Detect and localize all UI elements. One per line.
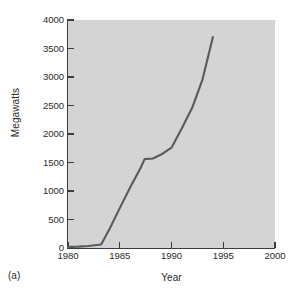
y-tick-4000 <box>68 19 74 20</box>
x-tick-label-1980: 1980 <box>46 250 90 261</box>
y-axis-title: Megawatts <box>10 63 21 163</box>
y-tick-1000 <box>68 190 74 191</box>
y-tick-label-3000: 3000 <box>26 72 64 82</box>
panel-label: (a) <box>8 270 20 281</box>
y-tick-3500 <box>68 48 74 49</box>
y-tick-3000 <box>68 76 74 77</box>
y-tick-label-4000: 4000 <box>26 15 64 25</box>
figure-panel: 05001000150020002500300035004000 1980198… <box>0 0 298 302</box>
y-tick-1500 <box>68 162 74 163</box>
x-tick-1985 <box>119 242 120 248</box>
y-tick-label-3500: 3500 <box>26 44 64 54</box>
y-tick-500 <box>68 219 74 220</box>
y-tick-label-2000: 2000 <box>26 129 64 139</box>
y-tick-label-1000: 1000 <box>26 186 64 196</box>
x-axis-title: Year <box>68 272 275 283</box>
y-tick-label-row: 4000 <box>0 15 64 25</box>
y-tick-label-500: 500 <box>26 215 64 225</box>
x-tick-label-1995: 1995 <box>201 250 245 261</box>
y-tick-label-2500: 2500 <box>26 101 64 111</box>
y-tick-2500 <box>68 105 74 106</box>
y-tick-label-row: 1000 <box>0 186 64 196</box>
y-tick-label-1500: 1500 <box>26 158 64 168</box>
y-tick-0 <box>68 247 74 248</box>
x-tick-1995 <box>223 242 224 248</box>
x-tick-label-1985: 1985 <box>98 250 142 261</box>
y-tick-label-row: 500 <box>0 215 64 225</box>
x-tick-1990 <box>171 242 172 248</box>
x-tick-label-1990: 1990 <box>150 250 194 261</box>
y-tick-2000 <box>68 133 74 134</box>
x-tick-2000 <box>274 242 275 248</box>
y-tick-label-row: 3500 <box>0 44 64 54</box>
plot-area <box>68 20 275 248</box>
x-tick-label-2000: 2000 <box>253 250 297 261</box>
x-tick-1980 <box>67 242 68 248</box>
